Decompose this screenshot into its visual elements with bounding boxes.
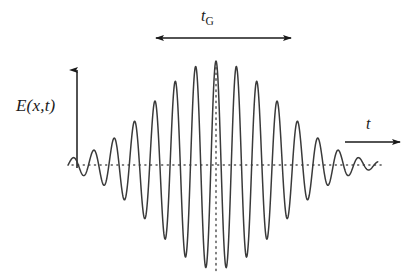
x-axis-label: t bbox=[366, 116, 370, 132]
x-axis-label-text: t bbox=[366, 115, 370, 132]
wave-packet-plot bbox=[0, 0, 414, 279]
duration-label-subscript: G bbox=[205, 15, 213, 27]
wave-packet-figure: E(x,t) tG t bbox=[0, 0, 414, 279]
gaussian-wave-packet-curve bbox=[68, 61, 378, 268]
y-axis-label: E(x,t) bbox=[16, 97, 55, 114]
duration-label: tG bbox=[201, 8, 214, 28]
y-axis-label-text: E(x,t) bbox=[16, 96, 55, 115]
